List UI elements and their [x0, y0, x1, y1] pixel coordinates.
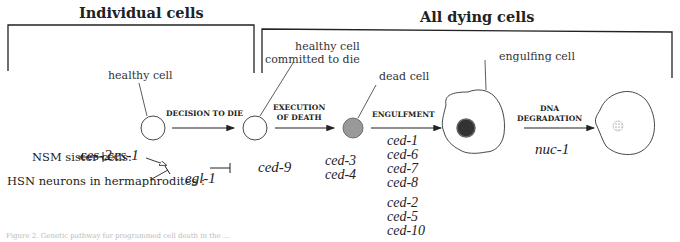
gene-egl-1: egl-1 — [185, 170, 216, 187]
engulfment-genes-group2: ced-2 ced-5 ced-10 — [387, 196, 425, 238]
execution-line1: EXECUTION — [273, 103, 325, 113]
engulfment-genes-group1: ced-1 ced-6 ced-7 ced-8 — [387, 134, 418, 190]
gene-ces-1: ces-1 — [107, 147, 139, 164]
healthy-cell-icon — [141, 116, 165, 140]
gene-ced-5: ced-5 — [387, 210, 425, 224]
execution-line2: OF DEATH — [273, 113, 325, 123]
gene-ced-4: ced-4 — [325, 168, 356, 182]
gene-nuc-1: nuc-1 — [535, 141, 569, 158]
gene-ced-8: ced-8 — [387, 176, 418, 190]
gene-ced-1: ced-1 — [387, 134, 418, 148]
gene-ced-6: ced-6 — [387, 148, 418, 162]
committed-cell-label: healthy cell committed to die — [283, 40, 360, 66]
dead-cell-icon — [343, 118, 363, 138]
committed-cell-label-line1: healthy cell — [283, 40, 360, 53]
engulfment-label: ENGULFMENT — [372, 110, 435, 120]
hsn-neurons-label: HSN neurons in hermaphrodites : — [7, 174, 205, 188]
individual-cells-bracket — [8, 25, 254, 73]
figure-caption: Figure 2. Genetic pathway for programmed… — [6, 232, 230, 240]
degraded-cell-icon — [595, 91, 654, 154]
dna-line1: DNA — [517, 104, 582, 114]
dna-degradation-label: DNA DEGRADATION — [517, 104, 582, 124]
engulfed-dead-cell-icon — [457, 119, 475, 137]
committed-cell-icon — [243, 116, 267, 140]
dead-cell-label: dead cell — [379, 70, 429, 83]
gene-ced-9: ced-9 — [258, 159, 291, 176]
decision-to-die-label: DECISION TO DIE — [166, 109, 243, 119]
individual-cells-header: Individual cells — [79, 4, 204, 21]
gene-ced-7: ced-7 — [387, 162, 418, 176]
dna-line2: DEGRADATION — [517, 114, 582, 124]
gene-ced-2: ced-2 — [387, 196, 425, 210]
fragmented-dna-icon — [613, 121, 623, 131]
healthy-cell-label: healthy cell — [108, 69, 173, 82]
all-dying-cells-header: All dying cells — [420, 8, 534, 25]
execution-of-death-label: EXECUTION OF DEATH — [273, 103, 325, 123]
engulfing-cell-label: engulfing cell — [499, 50, 575, 63]
committed-cell-label-line2: committed to die — [265, 53, 360, 66]
engulfing-cell-icon — [442, 90, 504, 153]
gene-ced-10: ced-10 — [387, 224, 425, 238]
gene-ced-3: ced-3 — [325, 154, 356, 168]
